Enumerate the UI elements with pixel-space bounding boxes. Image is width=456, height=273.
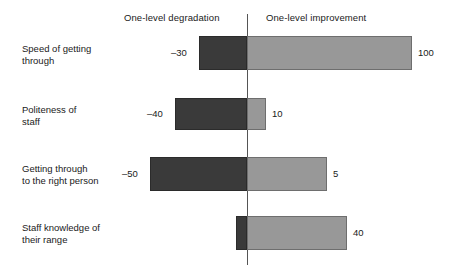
value-label-degradation: –30 [171,47,187,58]
category-label-line1: Getting through [22,163,88,174]
category-label-line2: staff [22,116,144,128]
category-label-line1: Staff knowledge of [22,222,100,233]
category-label: Staff knowledge of their range [22,222,144,245]
bar-degradation [236,216,247,250]
bar-improvement [247,216,347,250]
value-label-improvement: 100 [418,47,434,58]
diverging-bar-chart: One-level degradation One-level improvem… [0,0,456,273]
value-label-improvement: 10 [272,108,283,119]
category-label-line2: through [22,55,144,67]
category-label-line2: their range [22,234,144,246]
value-label-improvement: 40 [353,227,364,238]
bar-degradation [150,157,247,191]
category-label-line1: Politeness of [22,104,76,115]
bar-improvement [247,98,266,130]
value-label-improvement: 5 [333,168,338,179]
category-label-line1: Speed of getting [22,43,91,54]
bar-degradation [175,98,247,130]
category-label: Speed of getting through [22,43,144,66]
category-label: Politeness of staff [22,104,144,127]
bar-degradation [199,36,247,70]
bar-improvement [247,157,327,191]
legend-label-degradation: One-level degradation [124,12,220,23]
value-label-degradation: –40 [147,108,163,119]
bar-improvement [247,36,412,70]
legend-label-improvement: One-level improvement [266,12,366,23]
value-label-degradation: –50 [122,168,138,179]
